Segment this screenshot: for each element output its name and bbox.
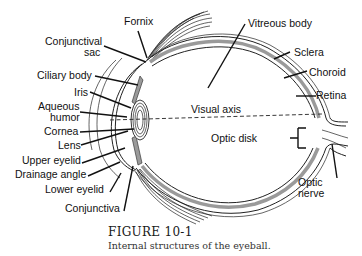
label-lower-eyelid: Lower eyelid xyxy=(45,183,104,195)
lower-eyelid-fibers xyxy=(136,169,212,224)
label-upper-eyelid: Upper eyelid xyxy=(22,154,81,166)
label-conjunctiva: Conjunctiva xyxy=(65,202,120,214)
label-choroid: Choroid xyxy=(309,66,346,78)
label-fornix: Fornix xyxy=(124,15,154,27)
label-sclera: Sclera xyxy=(294,46,324,58)
label-optic-disk: Optic disk xyxy=(211,132,258,144)
label-conjunctival-sac-line2: sac xyxy=(84,46,100,58)
label-lens: Lens xyxy=(58,139,81,151)
lens xyxy=(131,100,149,140)
label-aqueous-humor-line2: humor xyxy=(50,111,80,123)
label-cornea: Cornea xyxy=(44,125,79,137)
optic-nerve xyxy=(322,118,348,156)
label-drainage-angle: Drainage angle xyxy=(15,168,86,180)
label-optic-nerve-line2: nerve xyxy=(298,187,324,199)
eyeball-diagram: Fornix Conjunctival sac Ciliary body Iri… xyxy=(0,0,362,256)
optic-disk-bracket xyxy=(290,128,306,148)
figure-caption: Internal structures of the eyeball. xyxy=(108,240,271,251)
label-iris: Iris xyxy=(74,86,88,98)
label-ciliary-body: Ciliary body xyxy=(37,69,93,81)
retina-lower-outline xyxy=(145,148,313,203)
figure-title: FIGURE 10-1 xyxy=(108,225,193,239)
label-visual-axis: Visual axis xyxy=(191,103,241,115)
label-vitreous-body: Vitreous body xyxy=(248,17,313,29)
label-retina: Retina xyxy=(316,89,347,101)
